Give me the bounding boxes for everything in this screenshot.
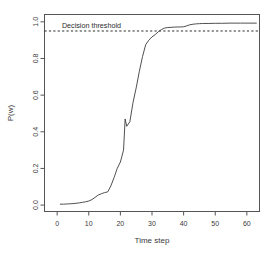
y-tick-label: 0.0	[32, 200, 39, 210]
probability-line-chart: 0102030405060 0.00.20.40.60.81.0 Decisio…	[0, 0, 272, 255]
y-axis-title: P(w)	[6, 104, 15, 121]
y-tick-label: 0.8	[32, 54, 39, 64]
x-tick-label: 60	[243, 220, 251, 227]
y-tick-label: 0.4	[32, 127, 39, 137]
x-tick-label: 0	[55, 220, 59, 227]
x-tick-label: 30	[148, 220, 156, 227]
x-tick-label: 10	[85, 220, 93, 227]
x-tick-label: 50	[211, 220, 219, 227]
chart-background	[0, 0, 272, 255]
x-tick-label: 20	[116, 220, 124, 227]
x-axis-title: Time step	[135, 236, 170, 245]
y-tick-label: 0.2	[32, 163, 39, 173]
y-tick-label: 0.6	[32, 90, 39, 100]
y-tick-label: 1.0	[32, 17, 39, 27]
decision-threshold-label: Decision threshold	[62, 21, 121, 30]
x-tick-label: 40	[180, 220, 188, 227]
chart-figure: 0102030405060 0.00.20.40.60.81.0 Decisio…	[0, 0, 272, 255]
